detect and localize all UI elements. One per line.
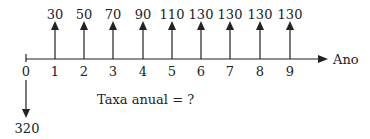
- period-label-2: 2: [80, 65, 88, 78]
- inflow-value-9: 130: [278, 8, 303, 21]
- inflow-value-1: 30: [47, 8, 64, 21]
- inflow-value-5: 110: [160, 8, 185, 21]
- axis-arrowhead-icon: [318, 55, 328, 63]
- inflow-value-6: 130: [189, 8, 214, 21]
- outflow-arrowhead-icon: [22, 109, 30, 118]
- period-label-7: 7: [226, 65, 234, 78]
- inflow-value-3: 70: [105, 8, 122, 21]
- inflow-value-8: 130: [248, 8, 273, 21]
- inflow-arrows: [55, 28, 290, 59]
- inflow-arrowheads-icon: [51, 21, 294, 30]
- period-label-4: 4: [139, 65, 147, 78]
- period-label-9: 9: [286, 65, 294, 78]
- rate-question: Taxa anual = ?: [97, 93, 194, 106]
- period-label-5: 5: [168, 65, 176, 78]
- period-label-8: 8: [256, 65, 264, 78]
- period-label-6: 6: [197, 65, 205, 78]
- inflow-value-4: 90: [135, 8, 152, 21]
- inflow-value-7: 130: [218, 8, 243, 21]
- inflow-value-2: 50: [76, 8, 93, 21]
- period-label-0: 0: [22, 65, 30, 78]
- period-label-1: 1: [51, 65, 59, 78]
- outflow-value: 320: [15, 122, 40, 135]
- axis-label: Ano: [333, 53, 359, 66]
- period-label-3: 3: [109, 65, 117, 78]
